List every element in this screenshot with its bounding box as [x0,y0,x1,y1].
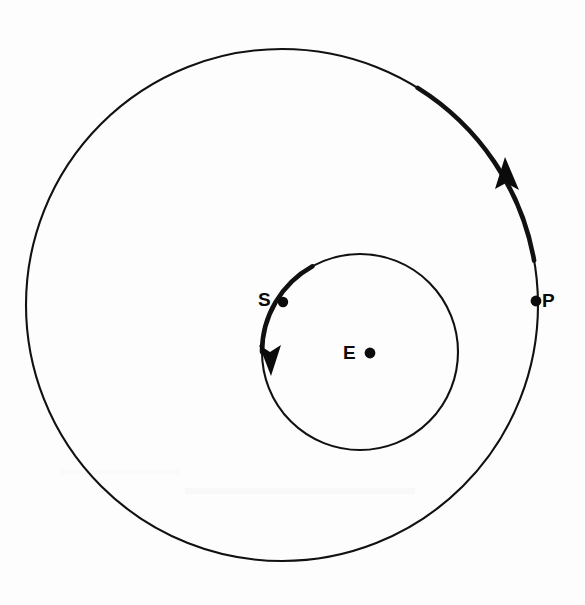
point-s-dot [278,297,288,307]
orbital-diagram-canvas: S E P [0,0,585,605]
diagram-svg [0,0,585,605]
outer-orbit-highlight-arc [418,88,534,261]
point-e-dot [365,348,376,359]
point-e-label: E [343,343,356,362]
point-s-label: S [258,290,271,309]
point-p-dot [531,296,542,307]
point-p-label: P [542,291,555,310]
